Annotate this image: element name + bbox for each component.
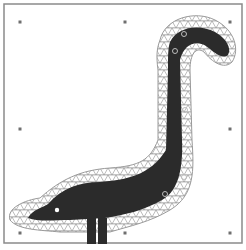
control-point[interactable]	[229, 232, 232, 235]
eye-point	[55, 208, 59, 212]
control-point[interactable]	[19, 232, 22, 235]
leg-right	[98, 218, 107, 244]
leg-left	[87, 218, 96, 244]
control-point[interactable]	[124, 232, 127, 235]
control-point[interactable]	[124, 21, 127, 24]
control-point[interactable]	[229, 21, 232, 24]
flamingo-mesh-diagram	[0, 0, 246, 250]
control-point[interactable]	[229, 128, 232, 131]
control-point[interactable]	[19, 21, 22, 24]
figure-canvas	[0, 0, 246, 250]
control-point[interactable]	[19, 128, 22, 131]
